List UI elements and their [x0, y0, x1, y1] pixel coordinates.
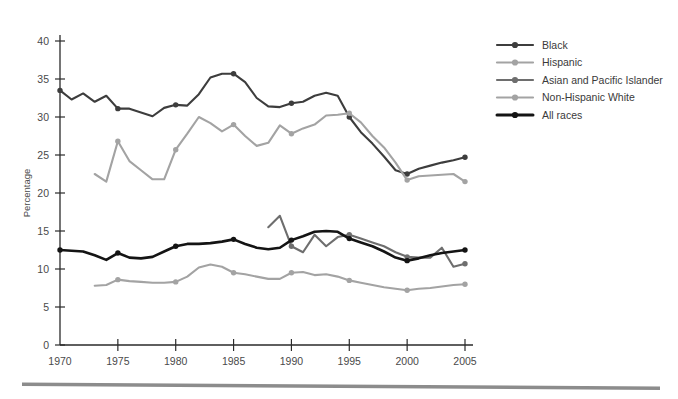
y-tick-label: 35: [37, 73, 49, 85]
data-point-marker: [231, 237, 236, 242]
data-point-marker: [404, 288, 409, 293]
data-point-marker: [289, 237, 294, 242]
data-point-marker: [289, 101, 294, 106]
x-tick-label: 1970: [48, 355, 72, 367]
x-tick-label: 1980: [164, 355, 188, 367]
data-point-marker: [115, 139, 120, 144]
legend-swatch-marker: [512, 42, 518, 48]
data-point-marker: [173, 244, 178, 249]
data-point-marker: [231, 71, 236, 76]
y-axis-title: Percentage: [21, 169, 32, 218]
data-point-marker: [404, 177, 409, 182]
x-tick-label: 1985: [222, 355, 246, 367]
series-line-asian-and-pacific-islander: [268, 216, 465, 267]
data-point-marker: [289, 244, 294, 249]
y-tick-label: 15: [37, 225, 49, 237]
y-tick-label: 10: [37, 263, 49, 275]
series-line-hispanic: [95, 113, 465, 181]
legend-label: All races: [542, 109, 582, 121]
y-tick-label: 30: [37, 111, 49, 123]
data-point-marker: [462, 155, 467, 160]
data-point-marker: [231, 270, 236, 275]
data-point-marker: [173, 147, 178, 152]
series-line-black: [60, 74, 465, 174]
y-tick-label: 25: [37, 149, 49, 161]
y-tick-label: 20: [37, 187, 49, 199]
data-point-marker: [57, 247, 62, 252]
data-point-marker: [347, 111, 352, 116]
series-line-non-hispanic-white: [95, 264, 465, 290]
data-point-marker: [115, 250, 120, 255]
x-tick-label: 2000: [395, 355, 419, 367]
data-point-marker: [115, 106, 120, 111]
legend-swatch-marker: [512, 77, 518, 83]
x-tick-label: 2005: [453, 355, 477, 367]
data-point-marker: [462, 247, 467, 252]
x-tick-label: 1975: [106, 355, 130, 367]
data-point-marker: [462, 282, 467, 287]
y-tick-label: 0: [43, 339, 49, 351]
data-point-marker: [404, 258, 409, 263]
line-chart-canvas: 0510152025303540197019751980198519901995…: [0, 0, 678, 399]
footer-rule: [22, 383, 660, 391]
data-point-marker: [115, 277, 120, 282]
data-point-marker: [289, 131, 294, 136]
legend-swatch-marker: [512, 59, 518, 65]
x-tick-label: 1990: [280, 355, 304, 367]
data-point-marker: [231, 122, 236, 127]
data-point-marker: [347, 278, 352, 283]
data-point-marker: [462, 261, 467, 266]
x-tick-label: 1995: [338, 355, 362, 367]
legend-swatch-marker: [512, 94, 518, 100]
data-point-marker: [173, 279, 178, 284]
y-tick-label: 40: [37, 35, 49, 47]
legend-swatch-marker: [512, 112, 518, 118]
data-point-marker: [289, 270, 294, 275]
legend-label: Non-Hispanic White: [542, 91, 635, 103]
legend-label: Asian and Pacific Islander: [542, 74, 663, 86]
data-point-marker: [173, 102, 178, 107]
legend-label: Hispanic: [542, 56, 582, 68]
legend-label: Black: [542, 39, 568, 51]
data-point-marker: [347, 236, 352, 241]
chart-figure: 0510152025303540197019751980198519901995…: [0, 0, 678, 399]
data-point-marker: [57, 88, 62, 93]
data-point-marker: [462, 179, 467, 184]
y-tick-label: 5: [43, 301, 49, 313]
